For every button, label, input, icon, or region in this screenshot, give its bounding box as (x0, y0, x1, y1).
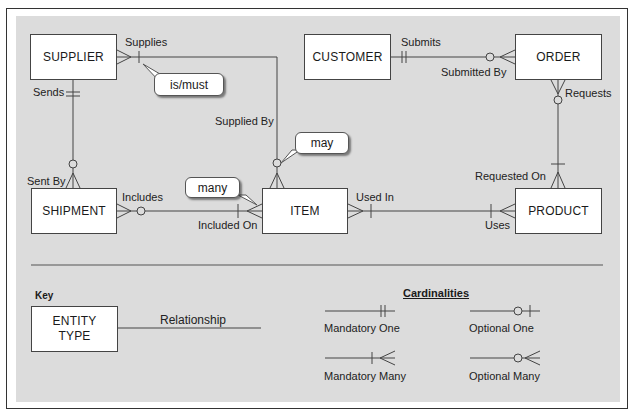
label-included-on: Included On (198, 219, 257, 231)
entity-product[interactable]: PRODUCT (515, 188, 602, 234)
label-used-in: Used In (356, 191, 394, 203)
label-submits: Submits (401, 36, 441, 48)
relationship-order-product (551, 80, 565, 188)
label-uses: Uses (485, 219, 510, 231)
cardinality-optional-one: Optional One (469, 322, 534, 334)
label-requests: Requests (565, 87, 611, 99)
label-supplied-by: Supplied By (215, 115, 274, 127)
entity-label: ORDER (536, 50, 580, 65)
callout-many: many (185, 177, 240, 198)
entity-shipment[interactable]: SHIPMENT (31, 188, 117, 234)
key-title: Key (35, 290, 53, 301)
callout-text: many (198, 181, 227, 195)
label-submitted-by: Submitted By (441, 66, 506, 78)
callout-tail-many (238, 195, 257, 205)
entity-order[interactable]: ORDER (515, 34, 602, 80)
callout-text: is/must (170, 78, 208, 92)
relationship-shipment-item (117, 204, 262, 218)
label-sent-by: Sent By (27, 175, 66, 187)
relationship-customer-order (391, 50, 515, 64)
key-entity-line2: TYPE (58, 329, 90, 344)
entity-customer[interactable]: CUSTOMER (304, 34, 391, 80)
entity-label: SUPPLIER (43, 50, 104, 65)
relationship-supplier-shipment (66, 80, 80, 188)
cardinality-mandatory-one-symbol (325, 305, 395, 317)
entity-label: SHIPMENT (42, 204, 106, 219)
callout-text: may (311, 136, 334, 150)
label-requested-on: Requested On (475, 170, 546, 182)
key-entity-line1: ENTITY (53, 314, 97, 329)
callout-is-must: is/must (154, 73, 224, 96)
cardinalities-title: Cardinalities (403, 287, 469, 299)
key-relationship-label: Relationship (160, 313, 226, 327)
cardinality-optional-many: Optional Many (469, 370, 540, 382)
entity-label: CUSTOMER (312, 50, 382, 65)
entity-label: PRODUCT (528, 204, 589, 219)
label-supplies: Supplies (125, 36, 167, 48)
cardinality-mandatory-many: Mandatory Many (324, 370, 406, 382)
callout-may: may (295, 132, 349, 154)
cardinality-optional-one-symbol (470, 305, 540, 317)
cardinality-optional-many-symbol (470, 351, 540, 365)
relationship-item-product (348, 204, 515, 218)
key-entity-type-box: ENTITY TYPE (31, 306, 118, 352)
cardinality-mandatory-many-symbol (325, 351, 395, 365)
cardinality-mandatory-one: Mandatory One (324, 322, 400, 334)
label-sends: Sends (33, 86, 64, 98)
label-includes: Includes (122, 191, 163, 203)
entity-supplier[interactable]: SUPPLIER (30, 34, 117, 80)
entity-label: ITEM (290, 204, 319, 219)
entity-item[interactable]: ITEM (262, 188, 348, 234)
